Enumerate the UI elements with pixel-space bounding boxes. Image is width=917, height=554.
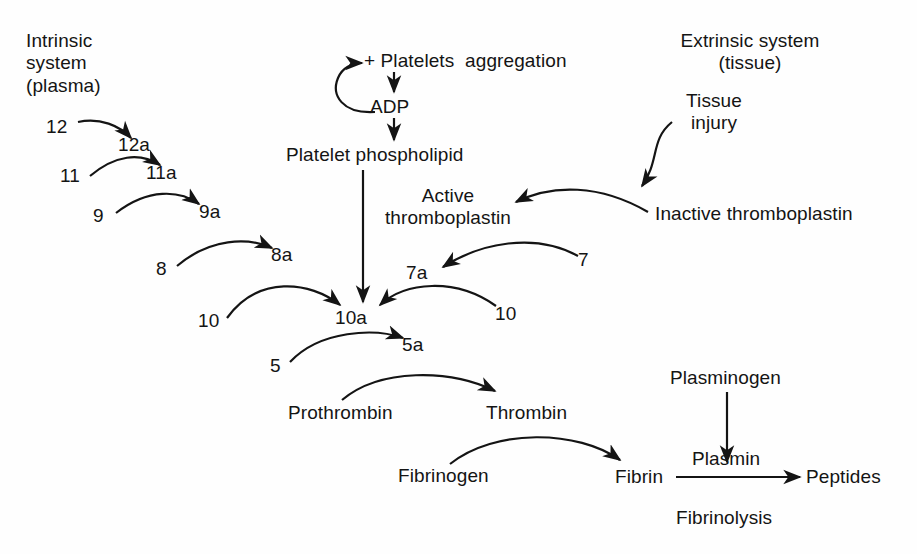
edge-5-to-5a xyxy=(290,333,403,362)
factor-8-label: 8 xyxy=(156,258,167,280)
factor-5a-label: 5a xyxy=(402,334,423,356)
factor-7-label: 7 xyxy=(578,249,589,271)
edge-fibrinogen-to-fibrin xyxy=(450,437,620,464)
edge-inactive-to-active-thromboplastin xyxy=(516,190,648,212)
prothrombin-label: Prothrombin xyxy=(288,402,393,424)
edge-8-to-8a xyxy=(177,241,272,266)
tissue-injury-label: Tissue injury xyxy=(668,90,760,135)
edge-7-to-7a xyxy=(443,243,578,267)
factor-8a-label: 8a xyxy=(271,244,292,266)
factor-7a-label: 7a xyxy=(406,262,427,284)
factor-9-label: 9 xyxy=(93,205,104,227)
adp-label: ADP xyxy=(370,96,409,118)
plasminogen-label: Plasminogen xyxy=(670,367,781,389)
edge-prothrombin-to-thrombin xyxy=(342,375,495,400)
fibrin-label: Fibrin xyxy=(615,466,663,488)
factor-9a-label: 9a xyxy=(199,201,220,223)
factor-11a-label: 11a xyxy=(146,162,177,184)
factor-12-label: 12 xyxy=(46,116,67,138)
platelets-aggregation-label: + Platelets aggregation xyxy=(364,50,567,72)
edge-10L-to-10a xyxy=(227,286,340,318)
coagulation-cascade-diagram: Intrinsic system (plasma) Extrinsic syst… xyxy=(0,0,917,554)
factor-10a-label: 10a xyxy=(335,307,367,329)
fibrinolysis-label: Fibrinolysis xyxy=(676,507,772,529)
factor-10-left-label: 10 xyxy=(198,310,219,332)
fibrinogen-label: Fibrinogen xyxy=(398,465,489,487)
factor-12a-label: 12a xyxy=(118,134,150,156)
extrinsic-system-header: Extrinsic system (tissue) xyxy=(642,30,858,75)
factor-11-label: 11 xyxy=(60,165,80,187)
intrinsic-system-header: Intrinsic system (plasma) xyxy=(26,30,101,97)
plasmin-label: Plasmin xyxy=(692,448,760,470)
peptides-label: Peptides xyxy=(806,466,881,488)
edge-9-to-9a xyxy=(116,194,199,213)
factor-5-label: 5 xyxy=(270,355,281,377)
platelet-phospholipid-label: Platelet phospholipid xyxy=(286,144,463,166)
edge-10R-to-10a xyxy=(380,286,496,306)
active-thromboplastin-label: Active thromboplastin xyxy=(372,185,524,230)
thrombin-label: Thrombin xyxy=(486,402,567,424)
inactive-thromboplastin-label: Inactive thromboplastin xyxy=(655,203,853,225)
factor-10-right-label: 10 xyxy=(495,303,516,325)
